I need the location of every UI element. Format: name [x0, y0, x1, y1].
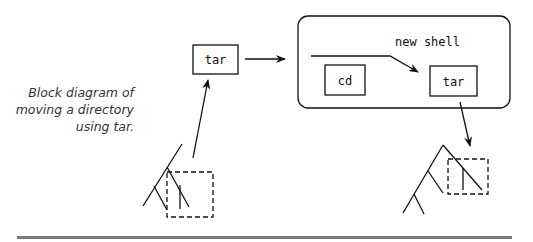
new-shell-container: new shell cd tar [298, 16, 510, 108]
block-diagram: tar new shell cd tar [0, 0, 533, 242]
tar-box-shell-label: tar [443, 75, 465, 89]
cd-box-label: cd [338, 74, 352, 88]
tar-box-left: tar [193, 45, 238, 74]
source-directory-tree [143, 144, 213, 217]
arrow-tree-to-tar [193, 80, 208, 158]
destination-directory-tree [403, 145, 488, 214]
copied-subtree-box [448, 159, 488, 194]
bottom-rule [17, 236, 512, 239]
new-shell-label: new shell [395, 35, 460, 49]
tar-box-left-label: tar [205, 53, 227, 67]
